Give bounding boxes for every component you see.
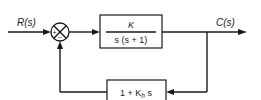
feedback-in-arrowhead xyxy=(166,89,174,95)
block-diagram: R(s) + − K s (s + 1) C(s) 1 + Kh s xyxy=(0,0,261,100)
feedback-junction-arrowhead xyxy=(57,41,63,49)
forward-numerator: K xyxy=(128,20,135,30)
feedback-expr-suffix: s xyxy=(145,88,153,98)
minus-sign: − xyxy=(58,34,62,41)
forward-denominator: s (s + 1) xyxy=(115,35,148,45)
input-arrowhead xyxy=(43,29,51,35)
forward-arrowhead xyxy=(92,29,100,35)
feedback-block: 1 + Kh s xyxy=(107,80,166,100)
plus-sign: + xyxy=(52,29,56,36)
output-label: C(s) xyxy=(216,17,235,28)
feedback-expression: 1 + Kh s xyxy=(120,88,152,99)
summing-junction: + − xyxy=(51,23,69,41)
feedback-expr-prefix: 1 + K xyxy=(120,88,141,98)
forward-block: K s (s + 1) xyxy=(100,15,162,48)
output-arrowhead xyxy=(238,29,247,35)
input-label: R(s) xyxy=(17,17,36,28)
